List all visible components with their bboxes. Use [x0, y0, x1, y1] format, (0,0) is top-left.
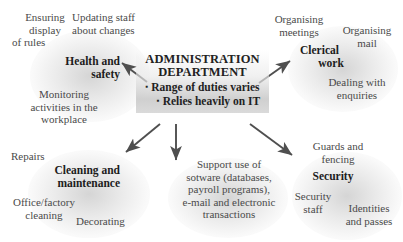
- leaf-line: Office/factory: [6, 196, 82, 209]
- branch-label-line1: Clerical: [300, 44, 362, 57]
- leaf-line: sotware (databases,: [168, 171, 290, 184]
- center-bullet-item-1: ▪Range of duties varies: [140, 80, 265, 94]
- leaf-line: and passes: [336, 215, 402, 228]
- leaf-ensuring-display-of-rules: Ensuring display of rules: [12, 11, 78, 49]
- leaf-repairs: Repairs: [11, 150, 71, 163]
- leaf-decorating: Decorating: [76, 215, 148, 228]
- leaf-line: Updating staff: [72, 11, 164, 24]
- leaf-line: Identities: [336, 202, 402, 215]
- leaf-line: Ensuring: [12, 11, 78, 24]
- leaf-line: display: [12, 24, 78, 37]
- branch-label-clerical-work[interactable]: Clerical work: [300, 44, 362, 69]
- branch-label-line2: work: [300, 57, 362, 70]
- leaf-office-factory-cleaning: Office/factory cleaning: [6, 196, 82, 221]
- bullet-square-icon: ▪: [145, 82, 148, 91]
- leaf-line: of rules: [12, 36, 78, 49]
- leaf-line: Guards and: [300, 140, 376, 153]
- leaf-security-staff: Security staff: [286, 190, 340, 215]
- leaf-line: Security: [286, 190, 340, 203]
- leaf-dealing-with-enquiries: Dealing with enquiries: [316, 76, 398, 101]
- leaf-line: meetings: [264, 26, 334, 39]
- center-bullet-label-2: Relies heavily on IT: [163, 95, 260, 107]
- leaf-line: cleaning: [6, 209, 82, 222]
- leaf-monitoring-activities-in-the-workplace: Monitoring activities in the workplace: [14, 88, 114, 126]
- leaf-line: workplace: [14, 113, 114, 126]
- branch-label-line1: Health and: [42, 55, 120, 68]
- leaf-line: activities in the: [14, 101, 114, 114]
- bullet-square-icon: ▪: [157, 96, 160, 105]
- arrow-to-cleaning-and-maintenance: [126, 124, 160, 152]
- leaf-identities-and-passes: Identities and passes: [336, 202, 402, 227]
- branch-label-line1: Cleaning and: [32, 164, 120, 177]
- leaf-guards-and-fencing: Guards and fencing: [300, 140, 376, 165]
- leaf-line: fencing: [300, 153, 376, 166]
- leaf-it-support-software: Support use of sotware (databases, payro…: [168, 158, 290, 221]
- leaf-line: transactions: [168, 208, 290, 221]
- center-title-line2: DEPARTMENT: [140, 66, 265, 79]
- leaf-line: Dealing with: [316, 76, 398, 89]
- center-bullet-item-2: ▪Relies heavily on IT: [140, 94, 265, 108]
- branch-label-line1: Security: [300, 170, 366, 183]
- center-bullet-list: ▪Range of duties varies ▪Relies heavily …: [140, 80, 265, 108]
- branch-label-health-and-safety[interactable]: Health and safety: [42, 55, 120, 80]
- branch-label-cleaning-and-maintenance[interactable]: Cleaning and maintenance: [32, 164, 120, 189]
- leaf-line: Organising: [334, 24, 400, 37]
- leaf-line: Support use of: [168, 158, 290, 171]
- leaf-line: about changes: [72, 24, 164, 37]
- leaf-line: staff: [286, 203, 340, 216]
- arrow-to-security: [250, 124, 292, 155]
- leaf-line: enquiries: [316, 89, 398, 102]
- leaf-line: Repairs: [11, 150, 71, 163]
- leaf-organising-meetings: Organising meetings: [264, 13, 334, 38]
- leaf-line: Monitoring: [14, 88, 114, 101]
- leaf-updating-staff-about-changes: Updating staff about changes: [72, 11, 164, 36]
- center-node-administration-department[interactable]: ADMINISTRATION DEPARTMENT ▪Range of duti…: [136, 50, 269, 113]
- branch-label-line2: maintenance: [32, 177, 120, 190]
- diagram-canvas: ADMINISTRATION DEPARTMENT ▪Range of duti…: [0, 0, 403, 242]
- leaf-line: Decorating: [76, 215, 148, 228]
- branch-label-security[interactable]: Security: [300, 170, 366, 183]
- leaf-line: Organising: [264, 13, 334, 26]
- center-bullet-label-1: Range of duties varies: [151, 81, 259, 93]
- leaf-line: payroll programs),: [168, 183, 290, 196]
- branch-label-line2: safety: [42, 68, 120, 81]
- leaf-line: e-mail and electronic: [168, 196, 290, 209]
